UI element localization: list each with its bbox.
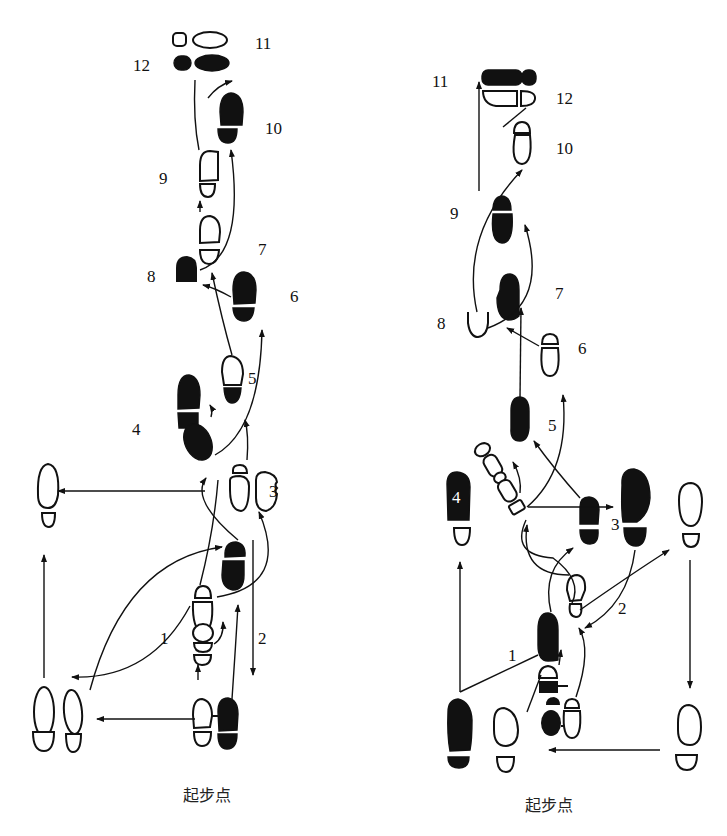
left-side-lower-pair [33,687,84,752]
right-step-7-footprint [497,274,519,320]
left-step-5-label: 5 [248,370,257,387]
right-step-12-label: 12 [556,90,573,107]
right-step-1-footprint [538,613,558,661]
right-step-1-label: 1 [508,647,517,664]
right-step-2-label: 2 [618,600,627,617]
left-step-3-label: 3 [269,483,278,500]
left-step-9-footprint [200,151,218,197]
right-step-5-label: 5 [548,417,557,434]
right-step-6-footprint [541,334,558,376]
right-step-4-footprint [447,472,470,545]
left-step-11-label: 11 [255,35,271,52]
right-step-10-footprint [514,122,531,164]
right-side-upper-footprint [679,483,702,547]
left-step-6-footprint [233,272,256,321]
left-step-6-label: 6 [290,288,299,305]
right-side-lower-footprint [676,705,701,770]
right-step-7-label: 7 [555,285,564,302]
right-lower-left-pair [448,699,518,772]
right-step-9-label: 9 [450,205,459,222]
right-twisted-white-footprint [473,440,526,516]
left-step-11-footprint [173,32,227,48]
left-start-black-foot [218,698,238,749]
left-step-12-footprint [174,55,229,71]
left-step-8-label: 8 [147,268,156,285]
left-step-1-footprint [193,586,213,665]
right-step-5-footprint [511,397,529,441]
left-black-footprint-above-1 [222,542,245,590]
left-side-upper-footprint [38,464,58,527]
right-step-8-footprint [468,312,488,337]
right-white-footprint-near-2 [567,575,585,617]
left-step-9-label: 9 [159,170,168,187]
left-step-2-label: 2 [258,630,267,647]
left-start-white-foot [193,699,212,746]
right-step-12-footprint [483,91,535,106]
left-step-5-footprint [222,356,243,403]
right-step-6-label: 6 [578,340,587,357]
right-step-11-label: 11 [432,73,448,90]
right-step-10-label: 10 [556,140,573,157]
left-white-footprint-near-8 [200,216,220,264]
right-step-4-label: 4 [452,489,461,506]
right-movement-arrows [460,82,690,750]
left-step-10-footprint [218,93,243,143]
right-step-11-footprint [482,70,536,85]
right-step-8-label: 8 [437,315,446,332]
left-step-4-footprint [178,375,218,465]
footstep-canvas [0,0,727,836]
left-step-8-footprint [176,256,197,282]
left-step-1-label: 1 [160,630,169,647]
right-start-point-caption: 起步点 [525,792,573,816]
left-step-10-label: 10 [265,120,282,137]
left-start-point-caption: 起步点 [183,782,231,806]
left-step-12-label: 12 [133,57,150,74]
left-step-4-label: 4 [132,421,141,438]
right-start-cluster [539,666,580,738]
right-step-3-label: 3 [611,516,620,533]
left-step-7-label: 7 [258,241,267,258]
